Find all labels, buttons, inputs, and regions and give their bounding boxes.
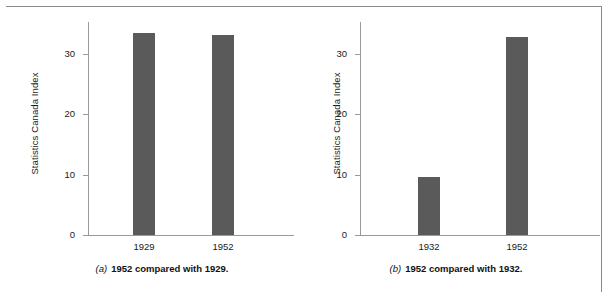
y-tick-label-20: 20 [336, 108, 347, 119]
y-tick-10: 10 [83, 175, 89, 176]
y-tick-label-10: 10 [64, 169, 75, 180]
y-tick-10: 10 [355, 175, 361, 176]
chart-panel-a: Statistics Canada Index 0 10 20 30 1929 … [0, 0, 306, 293]
panel-caption-text-b: 1952 compared with 1932. [405, 263, 522, 274]
y-tick-label-0: 0 [70, 229, 75, 240]
bar-1952 [506, 37, 528, 235]
y-tick-label-30: 30 [64, 48, 75, 59]
y-tick-label-30: 30 [336, 48, 347, 59]
y-tick-0: 0 [83, 235, 89, 236]
y-tick-0: 0 [355, 235, 361, 236]
y-tick-20: 20 [355, 114, 361, 115]
x-tick-label-1929: 1929 [119, 241, 169, 252]
y-tick-label-20: 20 [64, 108, 75, 119]
panel-caption-b: (b)1952 compared with 1932. [300, 263, 606, 274]
chart-panel-b: Statistics Canada Index 0 10 20 30 1932 … [300, 0, 606, 293]
y-tick-30: 30 [355, 54, 361, 55]
panel-tag-a: (a) [96, 263, 108, 274]
plot-area-a: 0 10 20 30 1929 1952 [88, 22, 294, 236]
panel-tag-b: (b) [390, 263, 402, 274]
bar-1952 [212, 35, 234, 235]
figure-container: Statistics Canada Index 0 10 20 30 1929 … [0, 0, 612, 293]
x-tick-label-1932: 1932 [404, 241, 454, 252]
x-tick-label-1952: 1952 [492, 241, 542, 252]
panel-caption-text-a: 1952 compared with 1929. [111, 263, 228, 274]
bar-1932 [418, 177, 440, 235]
plot-area-b: 0 10 20 30 1932 1952 [360, 22, 600, 236]
y-tick-label-10: 10 [336, 169, 347, 180]
y-tick-30: 30 [83, 54, 89, 55]
y-axis-label: Statistics Canada Index [29, 44, 40, 204]
y-tick-label-0: 0 [342, 229, 347, 240]
x-axis-line [88, 235, 294, 236]
x-tick-label-1952: 1952 [198, 241, 248, 252]
y-tick-20: 20 [83, 114, 89, 115]
bar-1929 [133, 33, 155, 235]
panel-caption-a: (a)1952 compared with 1929. [0, 263, 306, 274]
x-axis-line [360, 235, 600, 236]
